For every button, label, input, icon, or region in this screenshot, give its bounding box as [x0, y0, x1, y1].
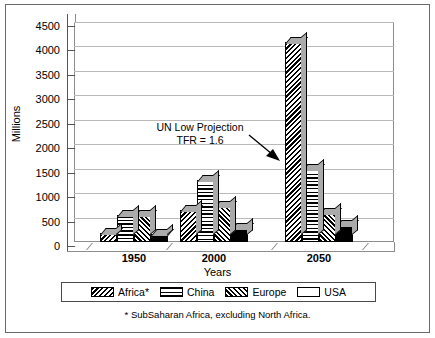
bar-africa-2000 [180, 210, 197, 242]
bar-side-face [213, 170, 219, 235]
gridline [74, 22, 394, 23]
y-axis-tick-mark [67, 173, 76, 174]
legend-label: Africa* [118, 286, 149, 298]
chart-legend: Africa*ChinaEuropeUSA [61, 282, 376, 302]
plot-floor-3d [67, 242, 395, 252]
gridline [74, 95, 394, 96]
bar-side-face [318, 159, 324, 235]
gridline [74, 71, 394, 72]
y-axis-tick-label: 0 [14, 241, 60, 251]
legend-item-europe[interactable]: Europe [225, 286, 286, 298]
y-axis-tick-mark [67, 124, 76, 125]
bar-side-face [196, 200, 202, 235]
y-axis-tick-mark [67, 246, 76, 247]
y-axis-tick-mark [67, 222, 76, 223]
legend-swatch [160, 287, 183, 297]
y-axis-tick-mark [67, 197, 76, 198]
y-axis-title: Millions [10, 74, 22, 174]
legend-item-africa[interactable]: Africa* [91, 286, 149, 298]
y-axis-tick-mark [67, 50, 76, 51]
legend-label: Europe [252, 286, 286, 298]
chart-footnote: * SubSaharan Africa, excluding North Afr… [0, 309, 435, 320]
y-axis-tick-label: 500 [14, 217, 60, 227]
y-axis-tick-label: 4500 [14, 21, 60, 31]
figure-container: 050010001500200025003000350040004500 195… [0, 0, 435, 338]
y-axis-tick-mark [67, 26, 76, 27]
bar-side-face [301, 32, 307, 235]
legend-item-china[interactable]: China [160, 286, 214, 298]
x-axis-tick-label: 1950 [104, 252, 164, 264]
y-axis-tick-label: 1000 [14, 192, 60, 202]
x-axis-tick-label: 2000 [184, 252, 244, 264]
gridline [74, 193, 394, 194]
legend-label: China [187, 286, 214, 298]
y-axis-tick-mark [67, 99, 76, 100]
gridline [74, 46, 394, 47]
bar-side-face [150, 205, 156, 235]
x-axis-tick-label: 2050 [289, 252, 349, 264]
bar-side-face [335, 203, 341, 235]
chart-plot-wrapper: 050010001500200025003000350040004500 195… [0, 0, 435, 338]
y-axis-tick-label: 4000 [14, 45, 60, 55]
legend-item-usa[interactable]: USA [297, 286, 346, 298]
y-axis-tick-mark [67, 148, 76, 149]
legend-swatch [297, 287, 320, 297]
bar-usa-1950 [151, 234, 168, 242]
x-axis-title: Years [0, 266, 435, 278]
bar-africa-1950 [100, 233, 117, 242]
legend-label: USA [324, 286, 346, 298]
bar-side-face [133, 205, 139, 235]
bar-africa-2050 [285, 42, 302, 242]
bar-side-face [230, 196, 236, 235]
legend-swatch [91, 287, 114, 297]
gridline [74, 169, 394, 170]
legend-swatch [225, 287, 248, 297]
y-axis-tick-mark [67, 75, 76, 76]
